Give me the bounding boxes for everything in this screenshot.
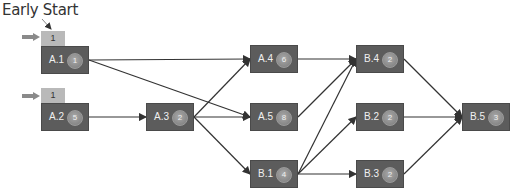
edge-B.4-B.5 [404, 59, 462, 117]
duration-badge: 5 [67, 110, 83, 126]
activity-node-a2[interactable]: A.25 [41, 103, 89, 131]
activity-node-b5[interactable]: B.53 [462, 103, 510, 131]
edge-B.1-B.2 [298, 117, 356, 174]
duration-badge: 2 [382, 110, 398, 126]
early-start-tab-a2: 1 [41, 88, 65, 103]
activity-label: A.2 [49, 111, 64, 122]
edge-A.3-B.1 [194, 117, 250, 174]
duration-badge: 6 [276, 52, 292, 68]
edge-A.1-A.4 [89, 59, 250, 60]
activity-label: A.4 [258, 53, 273, 64]
activity-node-a5[interactable]: A.58 [250, 103, 298, 131]
duration-badge: 3 [488, 110, 504, 126]
edge-A.5-B.4 [298, 59, 356, 117]
activity-label: B.1 [258, 168, 273, 179]
activity-node-b2[interactable]: B.22 [356, 103, 404, 131]
activity-label: A.1 [49, 54, 64, 65]
start-arrow-icon [22, 92, 40, 100]
activity-label: B.4 [364, 53, 379, 64]
activity-label: B.3 [364, 168, 379, 179]
activity-node-a4[interactable]: A.46 [250, 45, 298, 73]
activity-label: B.2 [364, 111, 379, 122]
activity-node-b1[interactable]: B.14 [250, 160, 298, 188]
early-start-tab-a1: 1 [41, 31, 65, 46]
edge-B.3-B.5 [404, 117, 462, 174]
activity-label: A.5 [258, 111, 273, 122]
callout-arrow-icon [42, 19, 51, 29]
edge-B.1-B.4 [298, 59, 356, 174]
start-arrow-icon [22, 33, 40, 41]
activity-node-b4[interactable]: B.42 [356, 45, 404, 73]
activity-label: B.5 [470, 111, 485, 122]
activity-node-a1[interactable]: A.11 [41, 46, 89, 74]
activity-node-a3[interactable]: A.32 [146, 103, 194, 131]
duration-badge: 2 [382, 52, 398, 68]
duration-badge: 2 [172, 110, 188, 126]
duration-badge: 4 [276, 167, 292, 183]
duration-badge: 8 [276, 110, 292, 126]
duration-badge: 1 [67, 53, 83, 69]
activity-node-b3[interactable]: B.32 [356, 160, 404, 188]
edge-A.3-A.4 [194, 59, 250, 117]
activity-label: A.3 [154, 111, 169, 122]
duration-badge: 2 [382, 167, 398, 183]
